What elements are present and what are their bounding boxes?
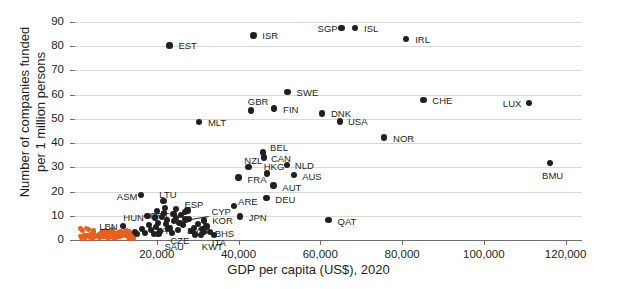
data-point-kwt: [192, 231, 199, 238]
point-label-qat: QAT: [338, 217, 357, 227]
gridline: [75, 192, 582, 193]
y-tick-label: 10: [30, 210, 64, 222]
data-point-hun: [144, 213, 151, 220]
data-point-est: [166, 42, 173, 49]
x-tick-mark: [484, 240, 485, 245]
data-point-isr: [250, 32, 257, 39]
point-label-aus: AUS: [302, 172, 322, 182]
y-tick-label: 80: [30, 40, 64, 52]
data-point-dnk: [319, 110, 326, 117]
point-label-est: EST: [178, 41, 196, 51]
data-point-fra: [235, 174, 242, 181]
data-point-cluster: [111, 234, 116, 239]
point-label-sau: SAU: [164, 242, 184, 252]
x-tick-mark: [566, 240, 567, 245]
y-tick-mark: [70, 216, 75, 217]
data-point-nor: [381, 134, 388, 141]
point-label-irl: IRL: [415, 35, 430, 45]
point-label-deu: DEU: [275, 195, 295, 205]
data-point-prt: [170, 211, 177, 218]
y-tick-mark: [70, 167, 75, 168]
plot-area: [75, 22, 582, 240]
data-point-ita: [201, 229, 208, 236]
point-label-bmu: BMU: [542, 171, 563, 181]
y-tick-label: 40: [30, 137, 64, 149]
x-tick-mark: [157, 240, 158, 245]
data-point-mlt: [196, 119, 203, 126]
data-point-swe: [284, 89, 291, 96]
gridline: [75, 143, 582, 144]
point-label-swe: SWE: [297, 88, 319, 98]
gridline: [75, 46, 582, 47]
point-label-che: CHE: [432, 96, 452, 106]
y-tick-label: 90: [30, 16, 64, 28]
point-label-lbn: LBN: [99, 222, 117, 232]
y-tick-label: 0: [30, 234, 64, 246]
data-point: [175, 227, 181, 233]
point-label-gbr: GBR: [248, 97, 269, 107]
gridline: [75, 119, 582, 120]
gridline: [75, 167, 582, 168]
point-label-esp: ESP: [184, 200, 203, 210]
point-label-bel: BEL: [270, 143, 288, 153]
y-tick-mark: [70, 95, 75, 96]
x-tick-label: 100,000: [444, 249, 524, 261]
data-point-cze: [165, 225, 172, 232]
point-label-usa: USA: [348, 117, 368, 127]
y-tick-mark: [70, 119, 75, 120]
data-point-cluster: [98, 235, 103, 240]
y-tick-label: 30: [30, 161, 64, 173]
data-point-cluster: [91, 228, 96, 233]
gridline: [75, 70, 582, 71]
data-point-aut: [270, 182, 277, 189]
data-point-cluster: [80, 228, 85, 233]
point-label-nor: NOR: [393, 134, 414, 144]
point-label-aut: AUT: [282, 183, 301, 193]
point-label-lux: LUX: [503, 99, 521, 109]
point-label-mlt: MLT: [208, 118, 226, 128]
point-label-nzl: NZL: [244, 156, 262, 166]
y-tick-label: 50: [30, 113, 64, 125]
x-tick-label: 120,000: [526, 249, 606, 261]
data-point-jpn: [237, 213, 244, 220]
point-label-jpn: JPN: [249, 213, 267, 223]
point-label-isr: ISR: [262, 31, 278, 41]
point-label-sgp: SGP: [318, 24, 338, 34]
data-point-qat: [325, 217, 332, 224]
x-tick-mark: [402, 240, 403, 245]
point-label-ltu: LTU: [159, 190, 176, 200]
gridline: [75, 95, 582, 96]
data-point-svn: [176, 220, 183, 227]
y-tick-mark: [70, 46, 75, 47]
y-tick-mark: [70, 192, 75, 193]
y-tick-label: 60: [30, 89, 64, 101]
data-point-cluster: [78, 234, 83, 239]
point-label-fra: FRA: [248, 175, 267, 185]
point-label-isl: ISL: [364, 24, 378, 34]
y-tick-mark: [70, 240, 75, 241]
y-tick-mark: [70, 22, 75, 23]
point-label-asm: ASM: [117, 192, 138, 202]
point-label-kor: KOR: [212, 216, 233, 226]
data-point-gbr: [248, 107, 255, 114]
x-tick-label: 20,000: [117, 249, 197, 261]
data-point-sau: [155, 231, 162, 238]
x-axis-title: GDP per capita (US$), 2020: [0, 262, 617, 277]
y-tick-label: 70: [30, 64, 64, 76]
point-label-are: ARE: [238, 197, 258, 207]
point-label-kwt: KWT: [202, 242, 223, 252]
x-tick-label: 60,000: [280, 249, 360, 261]
data-point-cluster: [92, 234, 97, 239]
data-point-sgp: [338, 25, 345, 32]
data-point-deu: [263, 195, 270, 202]
scatter-chart: Number of companies funded per 1 million…: [0, 0, 617, 289]
point-label-hkg: HKG: [264, 162, 285, 172]
point-label-fin: FIN: [283, 105, 298, 115]
x-tick-label: 80,000: [362, 249, 442, 261]
x-tick-mark: [239, 240, 240, 245]
y-tick-label: 20: [30, 186, 64, 198]
data-point-nld: [284, 162, 291, 169]
data-point: [134, 231, 140, 237]
data-point-usa: [337, 118, 344, 125]
point-label-hun: HUN: [123, 213, 144, 223]
